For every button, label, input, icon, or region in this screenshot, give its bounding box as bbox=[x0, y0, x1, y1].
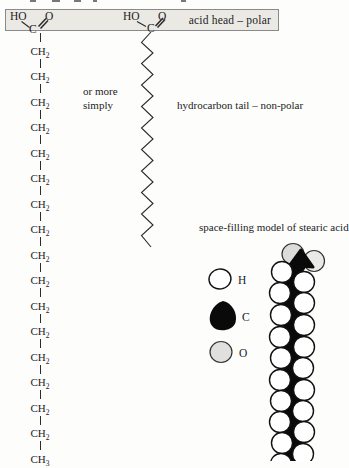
zigzag-tail bbox=[142, 32, 154, 247]
hydrogen-atoms-right bbox=[293, 272, 315, 462]
hydrogen-atom-icon bbox=[208, 268, 233, 291]
hydroxyl-label: HO bbox=[123, 10, 140, 22]
carboxyl-group-simplified: HO C O bbox=[123, 10, 166, 34]
legend: H C O bbox=[208, 268, 250, 363]
oxygen-label: O bbox=[45, 10, 53, 22]
legend-hydrogen-label: H bbox=[238, 274, 246, 286]
hydroxyl-label: HO bbox=[10, 10, 27, 22]
single-bond bbox=[137, 22, 146, 27]
double-bond-1 bbox=[39, 19, 47, 27]
legend-carbon-label: C bbox=[242, 311, 250, 323]
carbon-label: C bbox=[29, 23, 37, 35]
carboxyl-group-structural: HO C O bbox=[10, 10, 53, 35]
legend-oxygen-label: O bbox=[239, 347, 247, 359]
carbon-atom-icon bbox=[210, 301, 236, 330]
oxygen-atom-icon bbox=[210, 342, 232, 363]
space-filling-model bbox=[270, 244, 325, 462]
